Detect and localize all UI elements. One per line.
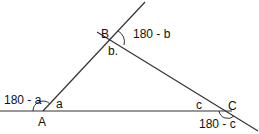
label-c-exterior: 180 - c [199, 117, 236, 131]
label-b-exterior: 180 - b [133, 27, 171, 41]
label-b-interior: b. [108, 44, 118, 58]
line-ab-extended [43, 2, 145, 111]
label-vertex-c: C [228, 99, 237, 113]
diagram-svg: 180 - a a A B b. 180 - b c C 180 - c [0, 0, 259, 134]
label-vertex-b: B [101, 27, 109, 41]
angle-arc-b-exterior [118, 31, 124, 45]
label-vertex-a: A [38, 115, 46, 129]
label-a-exterior: 180 - a [4, 93, 42, 107]
triangle-exterior-angles-diagram: 180 - a a A B b. 180 - b c C 180 - c [0, 0, 259, 134]
label-c-interior: c [196, 98, 202, 112]
label-a-interior: a [56, 97, 63, 111]
